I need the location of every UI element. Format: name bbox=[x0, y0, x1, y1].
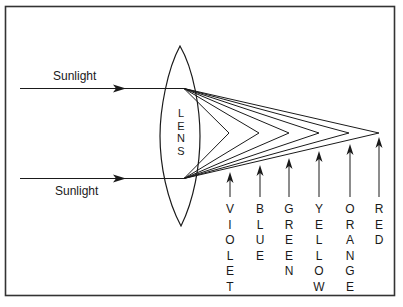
letter: S bbox=[175, 145, 187, 158]
arrow-violet bbox=[227, 172, 234, 197]
letter: O bbox=[223, 233, 237, 249]
letter: L bbox=[175, 107, 187, 120]
letter: I bbox=[223, 218, 237, 234]
letter: Y bbox=[312, 202, 326, 218]
arrow-green bbox=[286, 158, 293, 197]
letter: R bbox=[372, 202, 386, 218]
letter: N bbox=[175, 132, 187, 145]
letter: V bbox=[223, 202, 237, 218]
color-label-blue: BLUE bbox=[253, 202, 267, 264]
letter: L bbox=[312, 233, 326, 249]
sunlight-label-upper: Sunlight bbox=[53, 69, 96, 83]
incoming-ray-lower bbox=[20, 175, 184, 183]
letter: G bbox=[343, 264, 357, 280]
letter: L bbox=[253, 218, 267, 234]
arrow-red bbox=[376, 137, 383, 197]
incoming-ray-upper bbox=[20, 85, 184, 93]
arrow-orange bbox=[347, 144, 354, 197]
color-arrows bbox=[227, 137, 383, 197]
color-label-green: GREEN bbox=[282, 202, 296, 280]
letter: W bbox=[312, 280, 326, 296]
color-label-red: RED bbox=[372, 202, 386, 249]
color-label-yellow: YELLOW bbox=[312, 202, 326, 295]
letter: N bbox=[343, 249, 357, 265]
letter: R bbox=[343, 218, 357, 234]
letter: E bbox=[282, 249, 296, 265]
lens-label: LENS bbox=[175, 107, 187, 157]
letter: E bbox=[253, 249, 267, 265]
letter: L bbox=[223, 249, 237, 265]
letter: E bbox=[343, 280, 357, 296]
letter: E bbox=[372, 218, 386, 234]
letter: O bbox=[312, 264, 326, 280]
letter: O bbox=[343, 202, 357, 218]
letter: E bbox=[282, 233, 296, 249]
letter: L bbox=[312, 249, 326, 265]
letter: T bbox=[223, 280, 237, 296]
letter: E bbox=[223, 264, 237, 280]
letter: N bbox=[282, 264, 296, 280]
letter: E bbox=[312, 218, 326, 234]
sunlight-label-lower: Sunlight bbox=[55, 184, 98, 198]
letter: A bbox=[343, 233, 357, 249]
arrow-blue bbox=[257, 165, 264, 197]
letter: E bbox=[175, 120, 187, 133]
letter: U bbox=[253, 233, 267, 249]
color-label-orange: ORANGE bbox=[343, 202, 357, 295]
letter: D bbox=[372, 233, 386, 249]
arrow-yellow bbox=[316, 151, 323, 197]
letter: G bbox=[282, 202, 296, 218]
letter: B bbox=[253, 202, 267, 218]
letter: R bbox=[282, 218, 296, 234]
color-label-violet: VIOLET bbox=[223, 202, 237, 295]
